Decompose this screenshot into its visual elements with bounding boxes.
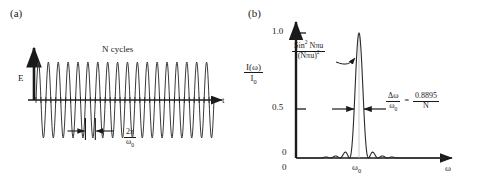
- panel-b-sinc-curve: [297, 33, 446, 158]
- panel-b-plot: [240, 0, 477, 185]
- figure-container: (a) E t N cycles 2π ω0: [0, 0, 477, 185]
- panel-b-y-ticks: [296, 33, 306, 109]
- panel-a-plot: [0, 0, 240, 185]
- panel-b-formula-leader-line: [336, 58, 355, 64]
- panel-a: (a) E t N cycles 2π ω0: [0, 0, 240, 185]
- panel-b: (b) I(ω) I0 1.0 0.5 0 0 ω0 ω Sin2 Nπu (N…: [240, 0, 477, 185]
